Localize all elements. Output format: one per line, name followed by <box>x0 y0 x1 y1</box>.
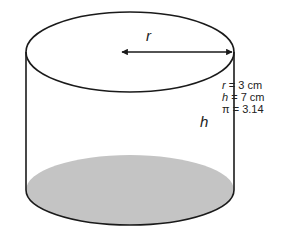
cylinder-diagram <box>0 0 282 243</box>
given-radius: r = 3 cm <box>222 79 265 91</box>
given-radius-value: = 3 cm <box>226 79 262 91</box>
shaded-base <box>26 155 234 225</box>
given-pi-value: = 3.14 <box>230 103 264 115</box>
given-pi: π = 3.14 <box>222 103 265 115</box>
radius-label: r <box>146 30 151 42</box>
height-label: h <box>200 116 208 128</box>
given-height-value: = 7 cm <box>228 91 264 103</box>
given-height: h = 7 cm <box>222 91 265 103</box>
given-pi-var: π <box>222 103 230 115</box>
given-values: r = 3 cm h = 7 cm π = 3.14 <box>222 79 265 115</box>
